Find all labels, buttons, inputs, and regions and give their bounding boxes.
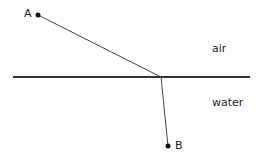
point-a-dot [36, 13, 41, 18]
refracted-ray [161, 77, 168, 146]
point-a-label: A [24, 7, 32, 20]
air-label: air [212, 42, 226, 55]
water-label: water [212, 96, 243, 109]
point-b-dot [166, 144, 171, 149]
refraction-diagram [0, 0, 262, 161]
point-b-label: B [175, 139, 183, 152]
incident-ray [38, 15, 161, 77]
